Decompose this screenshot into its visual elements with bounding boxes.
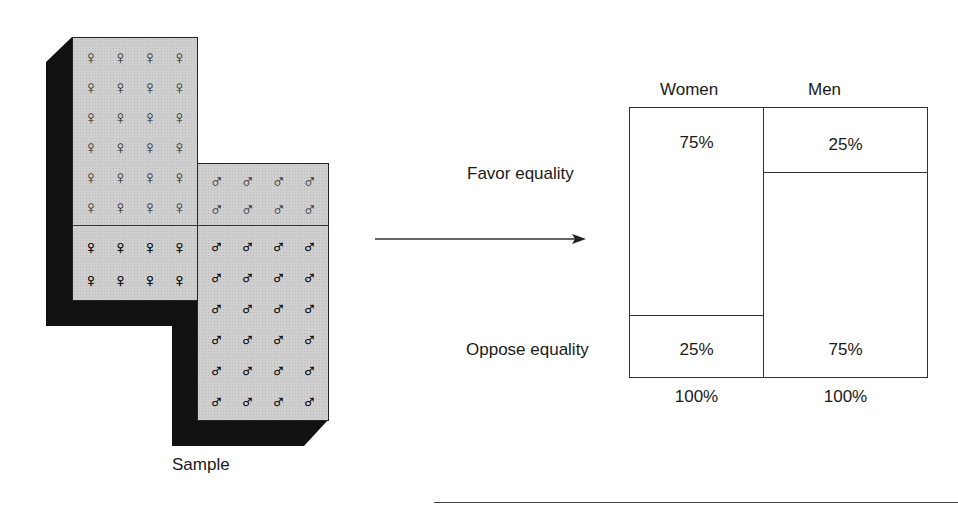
female-open-icon: ♀ — [76, 78, 106, 97]
men-split-line — [763, 172, 928, 173]
male-filled-icon: ♂ — [201, 298, 232, 318]
female-filled-icon: ♀ — [76, 237, 106, 257]
female-open-icon: ♀ — [106, 138, 136, 157]
women-split-line — [629, 315, 764, 316]
male-filled-icon: ♂ — [201, 329, 232, 349]
column-header-women: Women — [660, 80, 718, 100]
female-open-icon: ♀ — [76, 108, 106, 127]
male-filled-icon: ♂ — [232, 391, 263, 411]
female-open-icon: ♀ — [135, 198, 165, 217]
row-label-oppose: Oppose equality — [466, 340, 589, 360]
female-open-icon: ♀ — [165, 48, 195, 67]
male-filled-icon: ♂ — [263, 236, 294, 256]
male-filled-icon: ♂ — [232, 236, 263, 256]
male-open-icon: ♂ — [201, 172, 232, 191]
male-filled-icon: ♂ — [294, 329, 325, 349]
female-open-icon: ♀ — [135, 78, 165, 97]
male-filled-icon: ♂ — [232, 329, 263, 349]
female-open-icon: ♀ — [165, 168, 195, 187]
female-open-icon: ♀ — [135, 48, 165, 67]
male-filled-icon: ♂ — [294, 360, 325, 380]
female-open-icon: ♀ — [135, 108, 165, 127]
female-open-icon: ♀ — [106, 48, 136, 67]
row-label-favor: Favor equality — [467, 164, 574, 184]
male-filled-icon: ♂ — [201, 236, 232, 256]
male-filled-icon: ♂ — [294, 267, 325, 287]
male-open-icon: ♂ — [201, 200, 232, 219]
male-open-icon: ♂ — [263, 200, 294, 219]
male-filled-icon: ♂ — [294, 298, 325, 318]
female-open-icon: ♀ — [165, 78, 195, 97]
column-header-men: Men — [808, 80, 841, 100]
male-open-icon: ♂ — [232, 172, 263, 191]
female-open-icon: ♀ — [76, 48, 106, 67]
male-filled-icon: ♂ — [201, 360, 232, 380]
female-filled-icon: ♀ — [135, 237, 165, 257]
female-open-icon: ♀ — [76, 138, 106, 157]
bottom-rule — [434, 502, 958, 503]
male-filled-icon: ♂ — [263, 267, 294, 287]
favor-oppose-divider — [72, 225, 329, 226]
male-open-icon: ♂ — [263, 172, 294, 191]
female-open-icon: ♀ — [106, 78, 136, 97]
cell-men-favor: 25% — [763, 135, 928, 155]
total-women: 100% — [629, 387, 764, 407]
male-open-icon: ♂ — [294, 200, 325, 219]
male-open-icon: ♂ — [232, 200, 263, 219]
female-open-icon: ♀ — [106, 108, 136, 127]
male-filled-icon: ♂ — [201, 391, 232, 411]
female-filled-icon: ♀ — [165, 270, 195, 290]
female-filled-icon: ♀ — [106, 270, 136, 290]
male-filled-icon: ♂ — [201, 267, 232, 287]
women-favor-grid: ♀♀♀♀♀♀♀♀♀♀♀♀♀♀♀♀♀♀♀♀♀♀♀♀ — [76, 42, 194, 222]
male-filled-icon: ♂ — [232, 360, 263, 380]
female-open-icon: ♀ — [165, 138, 195, 157]
male-filled-icon: ♂ — [294, 391, 325, 411]
arrow-right-icon — [370, 230, 595, 250]
female-open-icon: ♀ — [135, 168, 165, 187]
female-open-icon: ♀ — [106, 198, 136, 217]
male-open-icon: ♂ — [294, 172, 325, 191]
men-favor-grid: ♂♂♂♂♂♂♂♂ — [201, 167, 325, 223]
total-men: 100% — [763, 387, 928, 407]
female-filled-icon: ♀ — [106, 237, 136, 257]
cell-women-oppose: 25% — [629, 340, 764, 360]
men-oppose-grid: ♂♂♂♂♂♂♂♂♂♂♂♂♂♂♂♂♂♂♂♂♂♂♂♂ — [201, 230, 325, 416]
male-filled-icon: ♂ — [294, 236, 325, 256]
cell-women-favor: 75% — [629, 133, 764, 153]
male-filled-icon: ♂ — [232, 298, 263, 318]
male-filled-icon: ♂ — [263, 298, 294, 318]
male-filled-icon: ♂ — [263, 329, 294, 349]
female-filled-icon: ♀ — [76, 270, 106, 290]
female-filled-icon: ♀ — [165, 237, 195, 257]
women-oppose-grid: ♀♀♀♀♀♀♀♀ — [76, 230, 194, 296]
female-open-icon: ♀ — [106, 168, 136, 187]
female-open-icon: ♀ — [76, 168, 106, 187]
female-open-icon: ♀ — [76, 198, 106, 217]
male-filled-icon: ♂ — [232, 267, 263, 287]
female-filled-icon: ♀ — [135, 270, 165, 290]
male-filled-icon: ♂ — [263, 391, 294, 411]
female-open-icon: ♀ — [135, 138, 165, 157]
male-filled-icon: ♂ — [263, 360, 294, 380]
female-open-icon: ♀ — [165, 108, 195, 127]
cell-men-oppose: 75% — [763, 340, 928, 360]
sample-label: Sample — [172, 455, 230, 475]
female-open-icon: ♀ — [165, 198, 195, 217]
